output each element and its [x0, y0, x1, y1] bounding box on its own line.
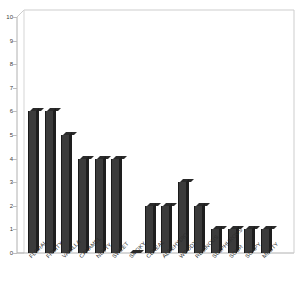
- bar-group: [60, 17, 77, 253]
- y-axis-tick-label: 10: [6, 14, 13, 20]
- bar-group: [77, 17, 94, 253]
- bar-group: [27, 17, 44, 253]
- bar-side-face: [186, 179, 189, 253]
- y-axis-tick-mark: [13, 17, 17, 18]
- y-axis-tick-mark: [13, 229, 17, 230]
- y-axis-tick-mark: [13, 253, 17, 254]
- y-axis-tick-mark: [13, 159, 17, 160]
- bar-chart: 012345678910 FLORALFRUITYVANILLACARAMELN…: [0, 0, 301, 305]
- bar-group: [110, 17, 127, 253]
- bar-group: [210, 17, 227, 253]
- bar-side-face: [119, 156, 122, 253]
- bar-side-face: [86, 156, 89, 253]
- bars-layer: [18, 17, 294, 253]
- bar-side-face: [69, 132, 72, 253]
- y-axis-tick-mark: [13, 206, 17, 207]
- bar-group: [243, 17, 260, 253]
- bar-side-face: [103, 156, 106, 253]
- bar-group: [127, 17, 144, 253]
- bar-group: [44, 17, 61, 253]
- y-axis-tick-mark: [13, 182, 17, 183]
- y-axis-tick-mark: [13, 111, 17, 112]
- x-axis-labels: FLORALFRUITYVANILLACARAMELNUTTYSWEETSMOK…: [18, 255, 294, 305]
- bar-group: [144, 17, 161, 253]
- y-axis: 012345678910: [0, 0, 17, 305]
- y-axis-tick-mark: [13, 41, 17, 42]
- bar-group: [260, 17, 277, 253]
- y-axis-tick-mark: [13, 135, 17, 136]
- y-axis-tick-mark: [13, 88, 17, 89]
- bar-group: [94, 17, 111, 253]
- bar-group: [160, 17, 177, 253]
- y-axis-tick-mark: [13, 64, 17, 65]
- bar-side-face: [36, 108, 39, 253]
- bar-group: [177, 17, 194, 253]
- bar-group: [227, 17, 244, 253]
- bar-side-face: [53, 108, 56, 253]
- bar-group: [193, 17, 210, 253]
